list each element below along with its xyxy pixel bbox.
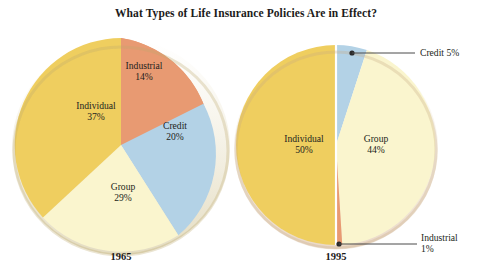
year-label-1995: 1995 (306, 251, 366, 262)
pie-chart-figure: What Types of Life Insurance Policies Ar… (0, 0, 492, 278)
pie-1995-slices (0, 0, 492, 278)
callout-1995-credit: Credit 5% (420, 47, 459, 58)
label-1995-individual: Individual 50% (266, 133, 342, 156)
callout-1995-industrial: Industrial 1% (421, 232, 458, 255)
label-1995-group: Group 44% (345, 133, 407, 156)
